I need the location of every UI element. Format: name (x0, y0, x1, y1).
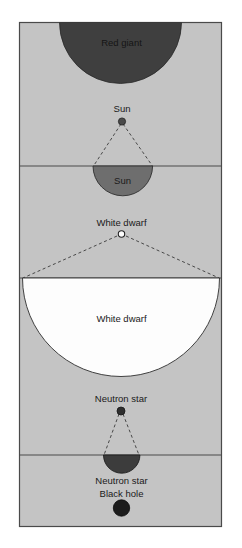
white-dwarf-actual-label: White dwarf (96, 217, 147, 228)
sun-actual-dot (118, 118, 125, 125)
neutron-star-actual-label: Neutron star (95, 393, 147, 404)
white-dwarf-actual-dot (118, 231, 124, 237)
white-dwarf-magnified-label: White dwarf (96, 313, 147, 324)
black-hole-shape (113, 500, 129, 516)
sun-actual-label: Sun (114, 103, 131, 114)
stellar-size-diagram: Red giant Sun Sun White dwarf White dwar… (0, 0, 242, 548)
diagram-canvas: Red giant Sun Sun White dwarf White dwar… (0, 0, 242, 548)
red-giant-magnified-label: Red giant (101, 37, 142, 48)
neutron-star-magnified-label: Neutron star (95, 475, 147, 486)
sun-magnified-label: Sun (114, 175, 131, 186)
panel-background (20, 23, 222, 527)
neutron-star-actual-dot (117, 407, 125, 415)
black-hole-label: Black hole (100, 488, 144, 499)
